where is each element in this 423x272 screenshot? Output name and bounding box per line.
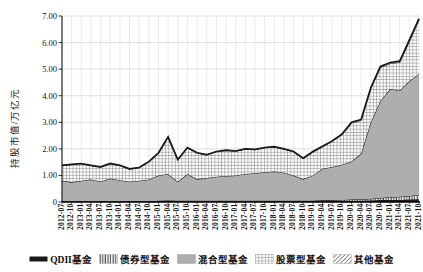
legend-swatch-solid-gray bbox=[177, 254, 196, 264]
y-tick-label: 5.00 bbox=[27, 64, 57, 74]
legend-swatch-vertical-lines bbox=[99, 254, 118, 264]
chart-legend: QDII基金债券型基金混合型基金股票型基金其他基金 bbox=[0, 252, 423, 266]
x-tick-label: 2017-07 bbox=[249, 204, 259, 250]
x-tick-label: 2019-10 bbox=[336, 204, 346, 250]
x-tick-label: 2014-10 bbox=[143, 204, 153, 250]
legend-item: QDII基金 bbox=[29, 252, 92, 266]
y-tick-label: 4.00 bbox=[27, 91, 57, 101]
x-tick-label: 2017-10 bbox=[259, 204, 269, 250]
x-tick-label: 2021-07 bbox=[404, 204, 414, 250]
x-tick-label: 2016-04 bbox=[201, 204, 211, 250]
x-tick-label: 2012-10 bbox=[66, 204, 76, 250]
x-tick-label: 2020-07 bbox=[365, 204, 375, 250]
legend-label: 其他基金 bbox=[354, 252, 394, 266]
x-tick-label: 2015-07 bbox=[172, 204, 182, 250]
y-tick-label: 3.00 bbox=[27, 117, 57, 127]
x-tick-label: 2014-04 bbox=[124, 204, 134, 250]
x-tick-label: 2014-01 bbox=[114, 204, 124, 250]
y-tick-label: 1.00 bbox=[27, 170, 57, 180]
legend-item: 其他基金 bbox=[333, 252, 394, 266]
x-tick-label: 2013-04 bbox=[85, 204, 95, 250]
legend-label: QDII基金 bbox=[50, 252, 92, 266]
x-tick-label: 2016-07 bbox=[211, 204, 221, 250]
legend-label: 股票型基金 bbox=[276, 252, 326, 266]
x-tick-label: 2021-10 bbox=[414, 204, 423, 250]
x-tick-label: 2020-10 bbox=[375, 204, 385, 250]
legend-item: 债券型基金 bbox=[99, 252, 170, 266]
y-tick-label: 2.00 bbox=[27, 144, 57, 154]
x-tick-label: 2018-07 bbox=[288, 204, 298, 250]
y-tick-label: 0 bbox=[27, 197, 57, 207]
legend-swatch-diagonal-lines bbox=[333, 254, 352, 264]
x-tick-label: 2015-10 bbox=[182, 204, 192, 250]
legend-label: 债券型基金 bbox=[120, 252, 170, 266]
x-tick-label: 2021-04 bbox=[394, 204, 404, 250]
x-tick-label: 2020-01 bbox=[346, 204, 356, 250]
x-tick-label: 2018-04 bbox=[278, 204, 288, 250]
x-tick-label: 2015-01 bbox=[153, 204, 163, 250]
x-tick-label: 2017-01 bbox=[230, 204, 240, 250]
y-tick-label: 6.00 bbox=[27, 38, 57, 48]
x-tick-label: 2013-07 bbox=[95, 204, 105, 250]
legend-swatch-solid-black bbox=[29, 254, 48, 264]
legend-item: 混合型基金 bbox=[177, 252, 248, 266]
legend-swatch-crosshatch bbox=[255, 254, 274, 264]
y-tick-label: 7.00 bbox=[27, 11, 57, 21]
x-tick-label: 2019-01 bbox=[307, 204, 317, 250]
x-tick-label: 2019-04 bbox=[317, 204, 327, 250]
x-tick-label: 2012-07 bbox=[57, 204, 67, 250]
legend-item: 股票型基金 bbox=[255, 252, 326, 266]
legend-label: 混合型基金 bbox=[198, 252, 248, 266]
stacked-area-chart: 持股市值/万亿元 01.002.003.004.005.006.007.00 2… bbox=[0, 0, 423, 272]
y-axis-title: 持股市值/万亿元 bbox=[7, 67, 21, 189]
